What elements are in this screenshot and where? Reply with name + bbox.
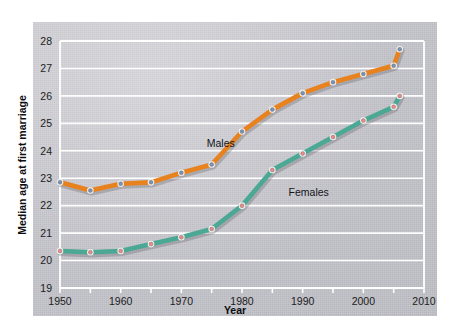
series-males-line: [60, 49, 401, 192]
x-tick-label: 2010: [412, 295, 436, 307]
series-females-line: [60, 96, 401, 254]
x-axis-title: Year: [224, 304, 246, 316]
series-shadow: [61, 51, 401, 192]
chart-plot: 19202122232425262728 1950196019701980199…: [0, 0, 461, 336]
series-females-markers: [57, 93, 403, 256]
data-point: [149, 180, 153, 184]
data-point: [88, 250, 92, 254]
x-tick-label: 1970: [170, 295, 194, 307]
series-inline-labels: MalesFemales: [207, 137, 329, 198]
data-point: [361, 119, 365, 123]
y-tick-label: 22: [40, 199, 52, 211]
series-line: [60, 96, 400, 252]
data-point: [392, 64, 396, 68]
data-point: [361, 72, 365, 76]
x-tick-label: 1990: [291, 295, 315, 307]
data-point: [398, 47, 402, 51]
data-point: [240, 130, 244, 134]
data-point: [331, 80, 335, 84]
series-shadow: [61, 97, 401, 253]
series-line: [60, 49, 400, 190]
data-point: [392, 105, 396, 109]
chart-figure: 19202122232425262728 1950196019701980199…: [0, 0, 461, 336]
data-point: [301, 91, 305, 95]
y-tick-label: 20: [40, 254, 52, 266]
series-inline-label: Females: [289, 186, 329, 198]
y-axis-title: Median age at first marriage: [16, 95, 28, 235]
data-point: [210, 163, 214, 167]
data-point: [331, 135, 335, 139]
y-tick-label: 28: [40, 35, 52, 47]
data-point: [270, 108, 274, 112]
data-point: [398, 94, 402, 98]
data-point: [179, 235, 183, 239]
data-point: [58, 249, 62, 253]
data-point: [119, 182, 123, 186]
y-tick-label: 26: [40, 90, 52, 102]
data-point: [149, 242, 153, 246]
y-tick-label: 21: [40, 227, 52, 239]
data-point: [301, 152, 305, 156]
data-point: [119, 249, 123, 253]
data-point: [270, 168, 274, 172]
x-tick-label: 1950: [48, 295, 72, 307]
y-tick-label: 23: [40, 172, 52, 184]
y-tick-label: 25: [40, 117, 52, 129]
y-tick-labels: 19202122232425262728: [40, 35, 52, 294]
x-tick-label: 1960: [109, 295, 133, 307]
data-point: [210, 227, 214, 231]
x-tick-label: 2000: [352, 295, 376, 307]
data-point: [179, 171, 183, 175]
data-point: [58, 180, 62, 184]
y-tick-label: 24: [40, 145, 52, 157]
data-point: [88, 189, 92, 193]
y-tick-label: 19: [40, 282, 52, 294]
data-point: [240, 204, 244, 208]
series-inline-label: Males: [207, 137, 235, 149]
y-tick-label: 27: [40, 62, 52, 74]
